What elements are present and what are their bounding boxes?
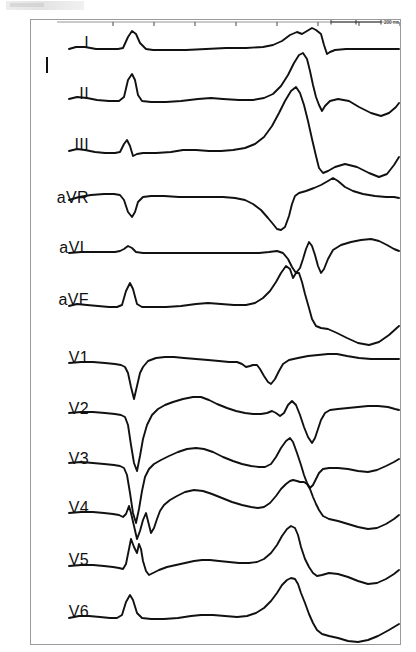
ecg-trace-v5 (69, 526, 399, 584)
ecg-trace-avl (69, 239, 399, 273)
lead-label-v6: V6 (31, 603, 89, 621)
lead-label-v5: V5 (31, 551, 89, 569)
lead-label-v3: V3 (31, 450, 89, 468)
ecg-trace-v2 (69, 397, 399, 471)
lead-label-v1: V1 (31, 349, 89, 367)
lead-label-avl: aVL (31, 239, 89, 257)
ecg-panel-inner: 200 ms IIIIIIaVRaVLaVFV1V2V3V4V5V6 (31, 20, 400, 644)
ecg-trace-v6 (69, 578, 399, 642)
ecg-trace-v3 (69, 438, 399, 523)
ecg-trace-v4 (69, 480, 399, 539)
lead-label-i: I (31, 34, 89, 52)
calibration-tick (46, 57, 48, 73)
lead-label-column: IIIIIIaVRaVLaVFV1V2V3V4V5V6 (31, 20, 93, 644)
ecg-trace-avf (69, 266, 399, 345)
ecg-trace-ii (69, 53, 399, 116)
lead-label-avr: aVR (31, 189, 89, 207)
lead-label-v2: V2 (31, 400, 89, 418)
ecg-viewer: 200 ms IIIIIIaVRaVLaVFV1V2V3V4V5V6 (0, 0, 416, 652)
ecg-trace-v1 (69, 354, 399, 399)
lead-label-v4: V4 (31, 499, 89, 517)
scan-artifact-smudge-dark (10, 3, 44, 7)
lead-label-avf: aVF (31, 291, 89, 309)
lead-label-iii: III (31, 136, 89, 154)
lead-label-ii: II (31, 85, 89, 103)
ecg-trace-i (69, 28, 399, 54)
ecg-panel: 200 ms IIIIIIaVRaVLaVFV1V2V3V4V5V6 (30, 19, 401, 645)
ecg-trace-avr (69, 178, 399, 230)
